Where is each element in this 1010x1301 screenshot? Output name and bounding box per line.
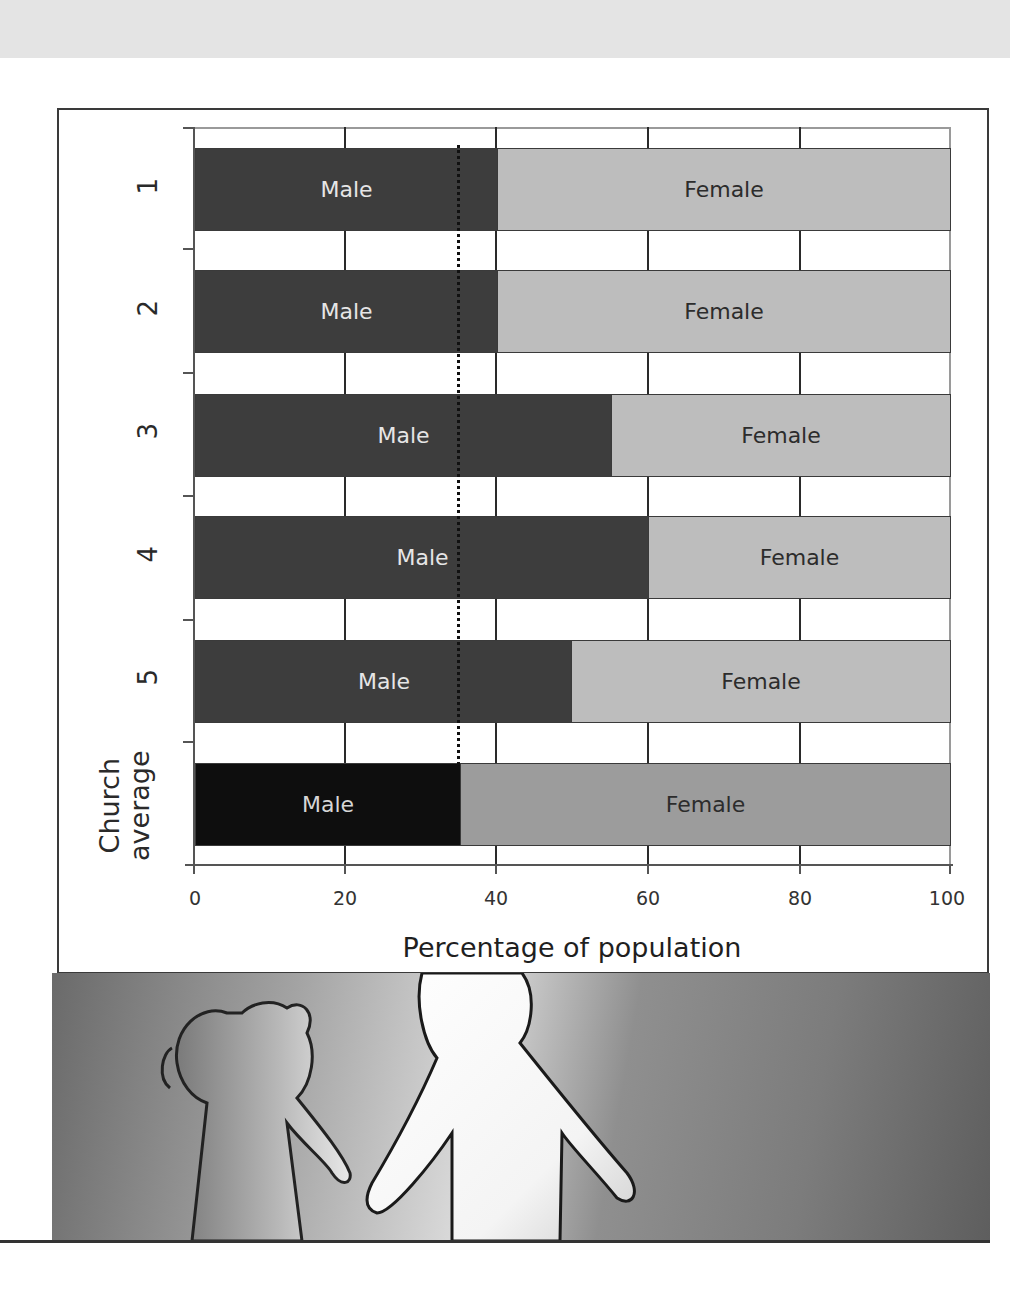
bar-segment-female: Female [611, 394, 951, 477]
female-label: Female [760, 545, 840, 570]
male-label: Male [302, 792, 354, 817]
y-tick [183, 248, 193, 250]
male-label: Male [396, 545, 448, 570]
y-tick [183, 741, 193, 743]
x-tick-label-80: 80 [770, 887, 830, 909]
x-tick-0 [193, 864, 195, 874]
y-tick [183, 372, 193, 374]
x-tick-20 [344, 864, 346, 874]
paper-dolls-illustration [52, 973, 990, 1241]
y-tick [183, 127, 193, 129]
bar-row-1: Male Female [193, 148, 951, 231]
x-tick-label-0: 0 [165, 887, 225, 909]
bar-row-3: Male Female [193, 394, 951, 477]
male-label: Male [377, 423, 429, 448]
x-tick-60 [647, 864, 649, 874]
paper-dolls-photo [52, 973, 990, 1241]
bar-row-2: Male Female [193, 270, 951, 353]
male-label: Male [358, 669, 410, 694]
female-label: Female [684, 177, 764, 202]
x-tick-label-100: 100 [917, 887, 977, 909]
bar-segment-male: Male [195, 148, 498, 231]
category-label-church: Church [95, 741, 125, 871]
gridline-100 [949, 127, 951, 865]
x-tick-40 [495, 864, 497, 874]
y-tick [183, 619, 193, 621]
female-label: Female [741, 423, 821, 448]
bar-segment-female: Female [497, 148, 951, 231]
bar-segment-male: Male [195, 640, 573, 723]
plot-top-border [193, 127, 951, 129]
category-label-1: 1 [134, 171, 163, 201]
female-label: Female [684, 299, 764, 324]
x-tick-100 [949, 864, 951, 874]
page-top-strip [0, 0, 1010, 58]
bar-row-church-average: Male Female [193, 763, 951, 846]
male-label: Male [320, 177, 372, 202]
gridline-20 [344, 127, 346, 865]
category-label-church-average: Church average [95, 741, 154, 871]
girl-doll-icon [162, 1003, 350, 1241]
gridline-80 [799, 127, 801, 865]
x-axis-line [185, 864, 953, 866]
plot-area: Male Female Male Female Male Female Male… [193, 127, 951, 865]
bar-row-5: Male Female [193, 640, 951, 723]
average-reference-line [457, 145, 460, 765]
y-axis-line [193, 127, 195, 865]
boy-doll-icon [367, 973, 634, 1241]
category-label-average: average [125, 741, 155, 871]
x-tick-label-60: 60 [618, 887, 678, 909]
x-tick-label-40: 40 [466, 887, 526, 909]
bar-segment-male-average: Male [195, 763, 461, 846]
gridline-60 [647, 127, 649, 865]
bar-segment-female: Female [648, 516, 951, 599]
category-label-4: 4 [134, 539, 163, 569]
male-label: Male [320, 299, 372, 324]
bar-row-4: Male Female [193, 516, 951, 599]
bar-segment-male: Male [195, 394, 612, 477]
x-axis-title: Percentage of population [193, 932, 951, 963]
bar-segment-female-average: Female [460, 763, 951, 846]
category-label-2: 2 [134, 293, 163, 323]
female-label: Female [666, 792, 746, 817]
gridline-40 [495, 127, 497, 865]
bar-segment-female: Female [497, 270, 951, 353]
bar-segment-male: Male [195, 270, 498, 353]
category-label-5: 5 [134, 662, 163, 692]
female-label: Female [721, 669, 801, 694]
x-tick-label-20: 20 [315, 887, 375, 909]
bar-segment-male: Male [195, 516, 650, 599]
category-label-3: 3 [134, 416, 163, 446]
x-tick-80 [799, 864, 801, 874]
y-tick [183, 495, 193, 497]
page-rule [0, 1240, 990, 1243]
bar-segment-female: Female [571, 640, 951, 723]
